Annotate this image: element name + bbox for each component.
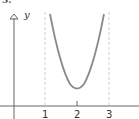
- graph: 3. y 1 2 3: [0, 0, 139, 119]
- y-axis-label: y: [23, 9, 30, 20]
- x-tick-label-2: 2: [74, 109, 80, 119]
- x-tick-label-3: 3: [106, 109, 112, 119]
- curve: [50, 14, 104, 89]
- problem-number: 3.: [2, 0, 11, 5]
- x-tick-label-1: 1: [42, 109, 48, 119]
